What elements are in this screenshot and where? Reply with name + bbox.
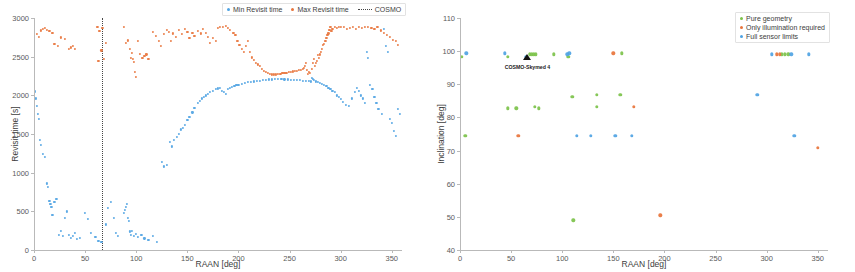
data-point	[215, 40, 217, 42]
data-point	[464, 51, 467, 54]
data-point	[533, 105, 536, 108]
data-point	[39, 139, 41, 141]
data-point	[392, 39, 394, 41]
data-point	[240, 83, 242, 85]
data-point	[188, 116, 190, 118]
data-point	[160, 45, 162, 47]
data-point	[128, 220, 130, 222]
data-point	[143, 237, 145, 239]
data-point	[102, 58, 104, 60]
data-point	[305, 62, 307, 64]
data-point	[304, 65, 306, 67]
data-point	[173, 139, 175, 141]
x-axis-tick	[613, 250, 614, 253]
data-point	[515, 106, 518, 109]
chart-panel-inclination: COSMO-Skymed 4 Pure geometry Only illumi…	[430, 0, 855, 272]
data-point	[253, 59, 255, 61]
data-point	[168, 31, 170, 33]
x-axis-tick-label: 0	[32, 254, 36, 263]
data-point	[315, 62, 317, 64]
data-point	[44, 156, 46, 158]
data-point	[770, 53, 773, 56]
data-point	[324, 40, 326, 42]
data-point	[316, 59, 318, 61]
data-point	[309, 72, 311, 74]
data-point	[64, 38, 66, 40]
data-point	[534, 53, 537, 56]
data-point	[259, 65, 261, 67]
data-point	[50, 206, 52, 208]
data-point	[87, 218, 89, 220]
data-point	[318, 57, 320, 59]
data-point	[630, 134, 633, 137]
y-axis-tick-label: 100	[442, 47, 455, 56]
data-point	[151, 235, 153, 237]
data-point	[247, 81, 249, 83]
legend-item-min-revisit[interactable]: Min Revisit time	[227, 6, 282, 13]
y-axis-tick	[457, 217, 460, 218]
y-axis-tick-label: 40	[447, 246, 455, 255]
data-point	[161, 161, 163, 163]
data-point	[184, 28, 186, 30]
data-point	[245, 45, 247, 47]
data-point	[238, 44, 240, 46]
data-point	[256, 80, 258, 82]
data-point	[133, 61, 135, 63]
y-axis-line	[460, 18, 461, 250]
data-point	[383, 32, 385, 34]
data-point	[123, 212, 125, 214]
legend-item-max-revisit[interactable]: Max Revisit time	[291, 6, 348, 13]
y-axis-tick-label: 50	[447, 212, 455, 221]
data-point	[369, 83, 371, 85]
legend-item-pure-geometry[interactable]: Pure geometry	[740, 15, 825, 22]
data-point	[247, 40, 249, 42]
data-point	[620, 52, 623, 55]
data-point	[552, 53, 555, 56]
x-axis-tick	[341, 250, 342, 253]
data-point	[171, 145, 173, 147]
data-point	[506, 55, 509, 58]
legend-marker-max-revisit-icon	[291, 8, 294, 11]
data-point	[155, 35, 157, 37]
data-point	[237, 83, 239, 85]
legend-item-cosmo[interactable]: COSMO	[358, 6, 401, 13]
data-point	[333, 91, 335, 93]
legend-item-only-illumination[interactable]: Only illumination required	[740, 24, 825, 31]
data-point	[262, 79, 264, 81]
legend-label-cosmo: COSMO	[375, 6, 401, 13]
data-point	[172, 32, 174, 34]
data-point	[293, 79, 295, 81]
data-point	[175, 35, 177, 37]
data-point	[79, 237, 81, 239]
data-point	[358, 90, 360, 92]
cosmo-skymed-annotation-label: COSMO-Skymed 4	[505, 64, 551, 70]
plot-area-right: COSMO-Skymed 4	[460, 18, 828, 250]
data-point	[354, 91, 356, 93]
legend-marker-only-illumination-icon	[740, 26, 743, 29]
data-point	[389, 35, 391, 37]
y-axis-tick	[457, 117, 460, 118]
data-point	[595, 105, 598, 108]
legend-label-min-revisit: Min Revisit time	[233, 6, 282, 13]
x-axis-tick	[136, 250, 137, 253]
legend-marker-pure-geometry-icon	[740, 17, 743, 20]
data-point	[156, 241, 158, 243]
data-point	[373, 96, 375, 98]
data-point	[537, 106, 540, 109]
y-axis-tick-label: 1500	[12, 130, 29, 139]
data-point	[296, 79, 298, 81]
data-point	[376, 26, 378, 28]
x-axis-tick	[34, 250, 35, 253]
data-point	[125, 206, 127, 208]
data-point	[186, 119, 188, 121]
data-point	[571, 95, 574, 98]
data-point	[340, 25, 342, 27]
data-point	[310, 80, 312, 82]
data-point	[47, 185, 49, 187]
data-point	[323, 43, 325, 45]
y-axis-tick-label: 110	[443, 14, 455, 23]
x-axis-tick	[716, 250, 717, 253]
data-point	[46, 182, 48, 184]
legend-item-full-sensor-limits[interactable]: Full sensor limits	[740, 33, 825, 40]
data-point	[141, 57, 143, 59]
